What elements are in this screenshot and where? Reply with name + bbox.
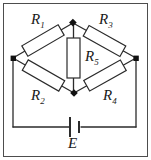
label-r5: R5 — [85, 49, 99, 67]
label-r3: R3 — [99, 12, 113, 30]
label-battery: E — [68, 136, 77, 151]
node-right — [133, 56, 138, 61]
label-r1: R1 — [31, 12, 45, 30]
circuit-diagram-figure: R1 R3 R2 R4 R5 E — [0, 0, 151, 160]
node-left — [11, 56, 16, 61]
label-r2: R2 — [31, 88, 45, 106]
resistor-r5-body — [67, 38, 80, 78]
resistor-r2-body — [22, 60, 64, 91]
label-r4: R4 — [103, 88, 117, 106]
figure-border — [4, 4, 148, 157]
node-bottom — [70, 89, 78, 97]
